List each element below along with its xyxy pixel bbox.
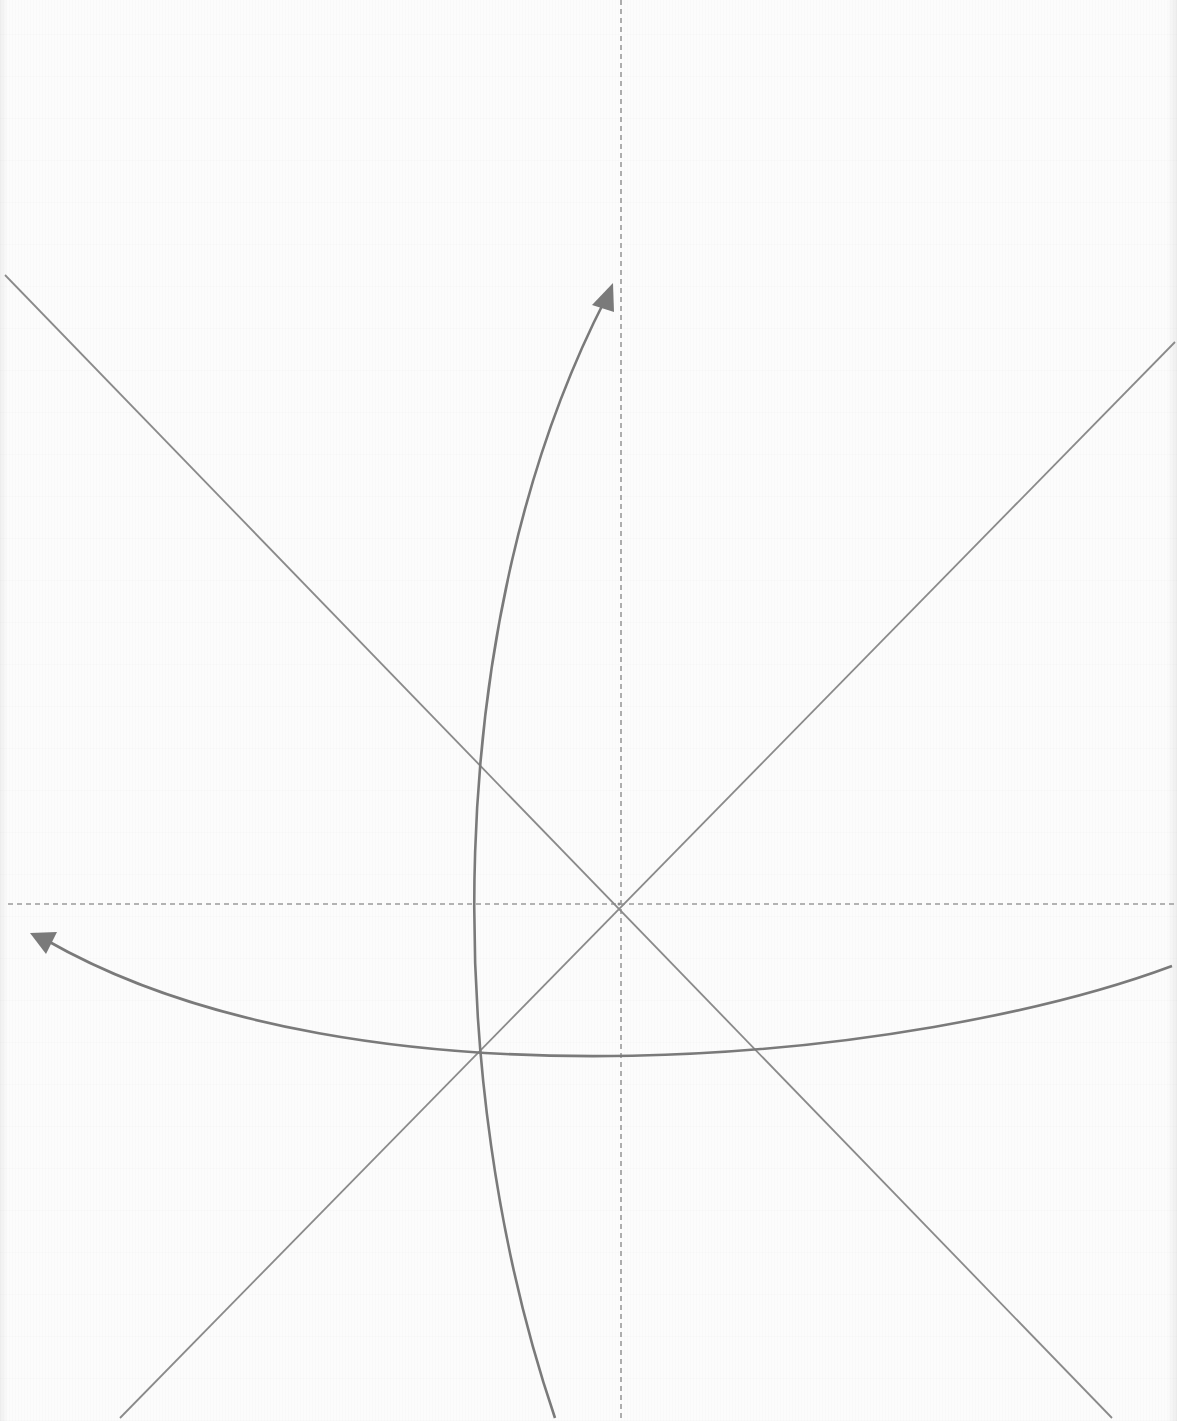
horizontal-curved-arrow xyxy=(46,940,1172,1056)
diagonal-line-top-left-to-bottom-right xyxy=(5,275,1112,1418)
diagram-canvas xyxy=(0,0,1177,1421)
arrowhead-up-icon xyxy=(592,283,614,312)
diagram-svg xyxy=(0,0,1177,1421)
diagonal-line-top-right-to-bottom-left xyxy=(120,342,1175,1418)
center-intersection xyxy=(618,903,621,906)
vertical-curved-arrow xyxy=(474,298,606,1418)
